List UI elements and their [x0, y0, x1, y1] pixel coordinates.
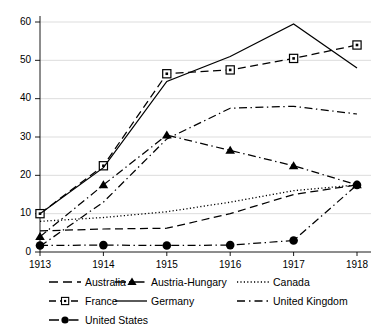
- legend-item-austria-hungary: Austria-Hungary: [114, 272, 236, 291]
- x-tick-label: 1916: [219, 259, 242, 270]
- y-tick-label: 30: [20, 131, 32, 142]
- solid-line-icon: [114, 294, 148, 308]
- legend-label: United States: [82, 314, 148, 326]
- series-marker-united-states: [36, 241, 45, 250]
- series-marker-france: [229, 69, 232, 72]
- dashed-line-icon: [48, 275, 82, 289]
- legend-row: France Germany United Kingdom: [0, 291, 376, 310]
- chart-figure: 0102030405060191319141915191619171918 Au…: [0, 0, 376, 331]
- series-marker-france: [356, 44, 359, 47]
- legend-row: United States: [0, 310, 376, 329]
- dashed-square-line-icon: [48, 294, 82, 308]
- series-marker-austria-hungary: [289, 161, 299, 169]
- legend-item-united-kingdom: United Kingdom: [236, 291, 368, 310]
- dotted-line-icon: [236, 275, 270, 289]
- plot-area: 0102030405060191319141915191619171918: [0, 0, 376, 270]
- x-tick-label: 1918: [346, 259, 369, 270]
- legend-label: Germany: [148, 295, 194, 307]
- y-tick-label: 40: [20, 92, 32, 103]
- series-line-canada: [40, 185, 357, 221]
- legend-label: United Kingdom: [270, 295, 348, 307]
- x-tick-label: 1917: [282, 259, 305, 270]
- legend-label: Austria-Hungary: [148, 276, 227, 288]
- series-marker-united-states: [163, 241, 172, 250]
- y-tick-label: 20: [20, 169, 32, 180]
- legend-label: France: [82, 295, 118, 307]
- dashdot-line-icon: [236, 294, 270, 308]
- x-tick-label: 1913: [29, 259, 52, 270]
- series-marker-france: [166, 72, 169, 75]
- series-line-france: [40, 45, 357, 214]
- series-marker-united-states: [289, 236, 298, 245]
- legend-item-canada: Canada: [236, 272, 368, 291]
- legend-label: Canada: [270, 276, 310, 288]
- legend-item-germany: Germany: [114, 291, 236, 310]
- chart-canvas: 0102030405060191319141915191619171918: [0, 0, 376, 270]
- series-marker-united-states: [99, 241, 108, 250]
- y-tick-label: 10: [20, 207, 32, 218]
- series-marker-austria-hungary: [225, 146, 235, 154]
- series-line-united-states: [40, 185, 357, 246]
- y-tick-label: 60: [20, 16, 32, 27]
- x-tick-label: 1915: [156, 259, 179, 270]
- legend-row: Australia Austria-Hungary Canada: [0, 272, 376, 291]
- legend-item-australia: Australia: [0, 272, 114, 291]
- series-line-australia: [40, 185, 357, 231]
- dashdot-circle-line-icon: [48, 313, 82, 327]
- dashdot-triangle-line-icon: [114, 275, 148, 289]
- series-line-germany: [40, 24, 357, 214]
- legend-item-france: France: [0, 291, 114, 310]
- series-marker-united-states: [226, 241, 235, 250]
- y-tick-label: 0: [25, 246, 31, 257]
- series-marker-united-states: [353, 181, 362, 190]
- series-line-austria-hungary: [40, 135, 357, 237]
- legend-item-united-states: United States: [0, 310, 114, 329]
- series-marker-france: [292, 57, 295, 60]
- x-tick-label: 1914: [92, 259, 115, 270]
- series-line-united-kingdom: [40, 106, 357, 246]
- y-tick-label: 50: [20, 54, 32, 65]
- chart-legend: Australia Austria-Hungary Canada: [0, 272, 376, 331]
